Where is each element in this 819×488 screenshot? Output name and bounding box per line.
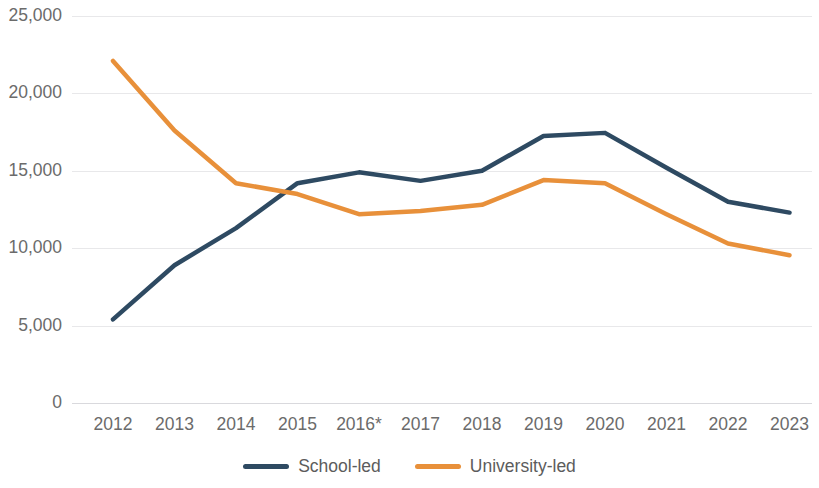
x-axis-tick-label: 2018 xyxy=(463,414,502,435)
legend-item-school-led[interactable]: School-led xyxy=(243,458,381,476)
x-axis-tick-label: 2014 xyxy=(217,414,256,435)
series-line-university-led xyxy=(113,61,790,255)
x-axis-tick-label: 2015 xyxy=(278,414,317,435)
legend-item-university-led[interactable]: University-led xyxy=(415,458,576,476)
y-axis-tick-label: 20,000 xyxy=(0,85,62,103)
x-axis-tick-label: 2020 xyxy=(586,414,625,435)
y-axis-tick-label: 10,000 xyxy=(0,239,62,257)
legend-label-university-led: University-led xyxy=(470,458,576,476)
line-chart: 05,00010,00015,00020,00025,000 201220132… xyxy=(0,0,819,488)
y-axis-tick-label: 5,000 xyxy=(0,317,62,335)
x-axis-tick-label: 2022 xyxy=(709,414,748,435)
legend: School-ledUniversity-led xyxy=(0,458,819,476)
y-axis-tick-label: 25,000 xyxy=(0,7,62,25)
plot-area xyxy=(72,16,812,403)
x-axis-tick-label: 2017 xyxy=(401,414,440,435)
y-axis: 05,00010,00015,00020,00025,000 xyxy=(0,16,62,403)
x-axis: 20122013201420152016*2017201820192020202… xyxy=(72,414,812,442)
x-axis-tick-label: 2016* xyxy=(336,414,382,435)
gridline-0 xyxy=(72,403,812,404)
y-axis-tick-label: 15,000 xyxy=(0,162,62,180)
y-axis-tick-label: 0 xyxy=(0,394,62,412)
x-axis-tick-label: 2021 xyxy=(647,414,686,435)
x-axis-tick-label: 2012 xyxy=(94,414,133,435)
legend-swatch-university-led xyxy=(415,464,461,469)
x-axis-tick-label: 2019 xyxy=(524,414,563,435)
series-lines xyxy=(72,16,812,403)
x-axis-tick-label: 2013 xyxy=(155,414,194,435)
legend-label-school-led: School-led xyxy=(298,458,381,476)
x-axis-tick-label: 2023 xyxy=(770,414,809,435)
legend-swatch-school-led xyxy=(243,464,289,469)
